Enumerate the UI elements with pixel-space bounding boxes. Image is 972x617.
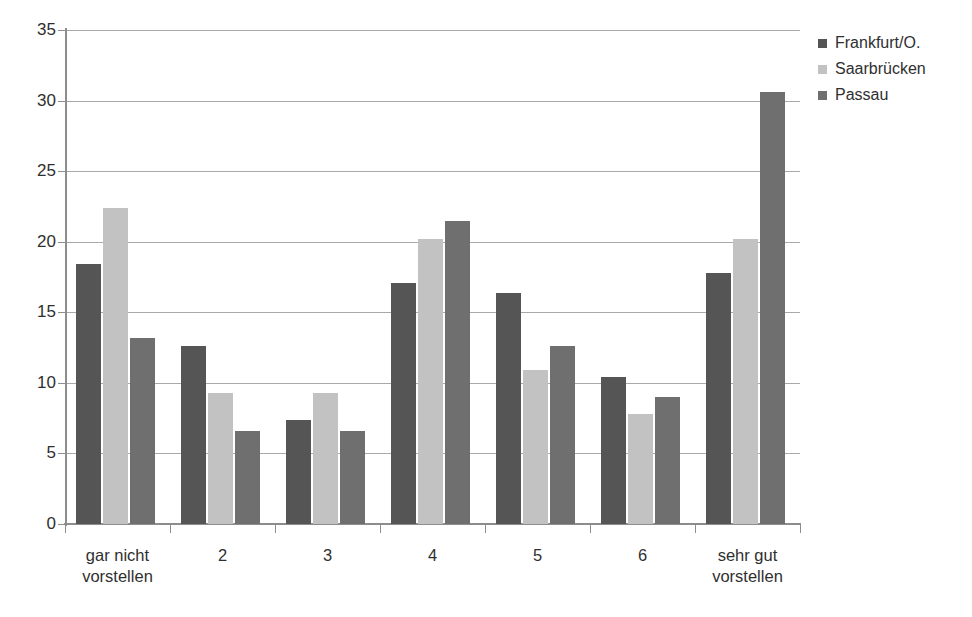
y-tick-mark-25	[58, 171, 66, 172]
bar-group	[76, 30, 155, 524]
bar[interactable]	[286, 420, 311, 524]
bar-group	[181, 30, 260, 524]
bar[interactable]	[550, 346, 575, 524]
y-tick-mark-30	[58, 101, 66, 102]
bar[interactable]	[76, 264, 101, 524]
bar[interactable]	[496, 293, 521, 524]
legend-swatch-icon-passau	[818, 91, 827, 100]
x-tick-mark	[380, 524, 381, 533]
legend-label-frankfurt: Frankfurt/O.	[835, 35, 920, 51]
bar-group	[496, 30, 575, 524]
legend: Frankfurt/O. Saarbrücken Passau	[818, 30, 926, 108]
legend-label-passau: Passau	[835, 87, 888, 103]
bar[interactable]	[445, 221, 470, 524]
category-label-line: vorstellen	[673, 566, 823, 587]
bar-group	[601, 30, 680, 524]
bar[interactable]	[418, 239, 443, 524]
bar-group	[706, 30, 785, 524]
bar[interactable]	[391, 283, 416, 524]
y-tick-mark-20	[58, 242, 66, 243]
bar[interactable]	[523, 370, 548, 524]
bar[interactable]	[760, 92, 785, 524]
legend-swatch-icon-frankfurt	[818, 39, 827, 48]
y-tick-label-35: 35	[12, 21, 56, 38]
legend-label-saarbruecken: Saarbrücken	[835, 61, 926, 77]
bar[interactable]	[208, 393, 233, 524]
x-tick-mark	[695, 524, 696, 533]
y-tick-label-25: 25	[12, 162, 56, 179]
legend-item-passau[interactable]: Passau	[818, 82, 926, 108]
bar[interactable]	[130, 338, 155, 524]
y-tick-mark-5	[58, 453, 66, 454]
bar[interactable]	[706, 273, 731, 524]
bar[interactable]	[103, 208, 128, 524]
legend-swatch-icon-saarbruecken	[818, 65, 827, 74]
x-axis-category-label: sehr gutvorstellen	[673, 545, 823, 587]
bar[interactable]	[235, 431, 260, 524]
x-tick-mark	[275, 524, 276, 533]
x-tick-mark	[65, 524, 66, 533]
y-tick-label-0: 0	[12, 515, 56, 532]
bar[interactable]	[655, 397, 680, 524]
legend-item-frankfurt[interactable]: Frankfurt/O.	[818, 30, 926, 56]
x-tick-mark	[590, 524, 591, 533]
y-tick-mark-15	[58, 312, 66, 313]
legend-item-saarbruecken[interactable]: Saarbrücken	[818, 56, 926, 82]
y-axis-line	[65, 28, 67, 526]
bar-group	[391, 30, 470, 524]
bar[interactable]	[340, 431, 365, 524]
x-tick-mark	[170, 524, 171, 533]
category-label-line: vorstellen	[43, 566, 193, 587]
y-tick-label-10: 10	[12, 374, 56, 391]
bar[interactable]	[733, 239, 758, 524]
y-tick-mark-35	[58, 30, 66, 31]
bar[interactable]	[628, 414, 653, 524]
x-tick-mark	[800, 524, 801, 533]
x-tick-mark	[485, 524, 486, 533]
bar[interactable]	[313, 393, 338, 524]
y-tick-label-5: 5	[12, 444, 56, 461]
bar[interactable]	[601, 377, 626, 524]
bar-group	[286, 30, 365, 524]
category-label-line: sehr gut	[673, 545, 823, 566]
y-tick-label-30: 30	[12, 92, 56, 109]
y-tick-mark-10	[58, 383, 66, 384]
bar[interactable]	[181, 346, 206, 524]
bar-chart: 35 30 25 20 15 10 5 0 gar nichtvorstelle…	[0, 0, 972, 617]
y-tick-label-15: 15	[12, 303, 56, 320]
y-tick-label-20: 20	[12, 233, 56, 250]
